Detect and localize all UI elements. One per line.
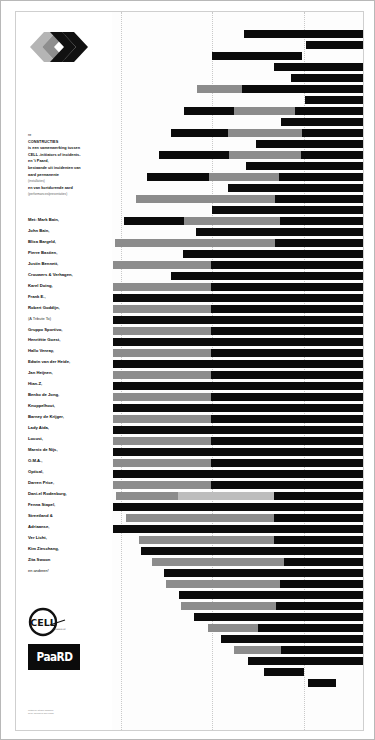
chart-bar-segment	[211, 404, 363, 412]
chart-bar-segment	[113, 448, 211, 456]
chart-bar-segment	[256, 140, 363, 148]
list-item: Pierre Bastien,	[28, 248, 112, 259]
list-item: Edwin van der Heide,	[28, 357, 112, 368]
chart-bar	[212, 52, 302, 60]
chart-bar	[234, 646, 363, 654]
list-item: Fenna Stapel,	[28, 500, 112, 511]
chart-bar-segment	[198, 195, 275, 203]
chart-bar-segment	[211, 437, 363, 445]
chart-bar-segment	[211, 481, 363, 489]
chart-bar-segment	[301, 151, 363, 159]
chart-bar-segment	[136, 195, 198, 203]
chart-bar-segment	[275, 239, 363, 247]
chart-bar	[194, 613, 363, 621]
chart-bar	[113, 481, 363, 489]
list-item: Benko de Jong,	[28, 390, 112, 401]
list-item: O.M.A.,	[28, 456, 112, 467]
chart-bar	[113, 261, 363, 269]
chart-bar-segment	[113, 481, 211, 489]
chart-bar-segment	[113, 283, 211, 291]
chart-bar-segment	[152, 558, 212, 566]
cell-logo-icon[interactable]: CELL initiators of incidents	[28, 607, 66, 637]
list-item: Locust,	[28, 434, 112, 445]
chart-bar-segment	[113, 437, 211, 445]
list-item: Hallo Venray,	[28, 346, 112, 357]
list-item: Henriëtte Goest,	[28, 335, 112, 346]
chart-bar-segment	[276, 602, 363, 610]
paard-logo[interactable]: PaaRD	[28, 644, 80, 670]
chart-bar-segment	[306, 41, 363, 49]
list-item: Karel Doing,	[28, 281, 112, 292]
list-item: Streetland &	[28, 511, 112, 522]
chart-bar-segment	[211, 371, 363, 379]
chart-bar-segment	[305, 96, 363, 104]
chart-bar-segment	[147, 173, 209, 181]
chart-bar-segment	[212, 52, 302, 60]
list-item: Crouwers & Verhagen,	[28, 270, 112, 281]
chart-bar-segment	[116, 492, 178, 500]
chart-bar	[113, 371, 363, 379]
chart-bar-segment	[113, 338, 211, 346]
chart-bar-segment	[284, 558, 363, 566]
svg-text:initiators of incidents: initiators of incidents	[52, 628, 66, 631]
chart-bar-segment	[244, 30, 363, 38]
chart-bar	[166, 580, 363, 588]
chart-bar-segment	[209, 173, 279, 181]
chart-bar	[274, 63, 363, 71]
chart-bar-segment	[178, 492, 274, 500]
chart-bar-segment	[212, 580, 280, 588]
chart-bar-segment	[113, 393, 211, 401]
chart-bar	[113, 470, 363, 478]
chart-bar	[113, 327, 363, 335]
chart-bar	[264, 668, 304, 676]
chart-bar-segment	[113, 382, 211, 390]
names-heading: Met: Mark Bain,	[28, 215, 112, 226]
chart-bar	[221, 635, 363, 643]
chart-bar	[113, 404, 363, 412]
chart-bar	[171, 272, 363, 280]
chart-bar-segment	[242, 85, 302, 93]
chart-bar	[139, 536, 363, 544]
names-footer: en anderen!	[28, 566, 112, 577]
chart-bar-segment	[211, 316, 363, 324]
chart-bar	[196, 228, 363, 236]
chart-bar-segment	[234, 107, 295, 115]
chart-bar	[147, 173, 363, 181]
list-item: Hian-Z,	[28, 379, 112, 390]
chart-bar-segment	[258, 624, 363, 632]
chart-bar-segment	[211, 349, 363, 357]
chart-bar-segment	[166, 580, 212, 588]
chart-bar-segment	[113, 327, 211, 335]
chart-bar-segment	[248, 657, 363, 665]
chart-bar	[124, 217, 363, 225]
chart-bar	[197, 85, 363, 93]
chart-bar-segment	[211, 393, 363, 401]
chart-bar	[181, 602, 363, 610]
chart-bar-segment	[113, 305, 211, 313]
chart-bar-segment	[165, 239, 275, 247]
chart-bar-segment	[275, 195, 363, 203]
chart-bar-segment	[113, 404, 211, 412]
chart-bar-segment	[274, 492, 363, 500]
chart-bar-segment	[211, 360, 363, 368]
chart-bar-segment	[211, 338, 363, 346]
chart-bar-segment	[115, 239, 165, 247]
chart-bar-segment	[228, 184, 363, 192]
chart-bar-segment	[113, 426, 211, 434]
chart-bar-segment	[159, 151, 229, 159]
chart-bar-segment	[212, 206, 363, 214]
chart-bar	[113, 294, 363, 302]
intro-body2: CELL -initiators of incidents-	[28, 152, 108, 159]
chart-bar	[113, 503, 363, 511]
chart-bar	[179, 591, 363, 599]
chart-bar-segment	[113, 261, 211, 269]
chart-bar-segment	[211, 448, 363, 456]
list-item: Adriaanse,	[28, 522, 112, 533]
chart-bar	[281, 118, 363, 126]
chart-bar-segment	[211, 525, 363, 533]
list-item: Blixa Bargeld,	[28, 237, 112, 248]
chart-bar-segment	[291, 74, 363, 82]
chart-bar-segment	[274, 536, 363, 544]
chart-bar-segment	[264, 668, 304, 676]
intro-body5: aard permanente	[28, 172, 108, 179]
